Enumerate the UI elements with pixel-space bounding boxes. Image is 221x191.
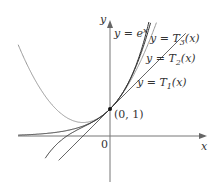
origin-label: 0 bbox=[101, 138, 108, 151]
y-axis-label: y bbox=[99, 13, 107, 26]
label-exp: y = ex bbox=[113, 26, 148, 40]
label-t2: y = T2(x) bbox=[145, 52, 196, 67]
x-axis-arrow-icon bbox=[199, 133, 207, 139]
taylor-polynomial-chart: y x 0 (0, 1) y = ex y = T3(x) y = T2(x) … bbox=[0, 0, 221, 191]
point-0-1 bbox=[108, 107, 112, 111]
x-axis-label: x bbox=[201, 140, 208, 153]
point-label: (0, 1) bbox=[114, 108, 144, 121]
curve-t3 bbox=[45, 23, 150, 158]
y-axis bbox=[107, 20, 113, 182]
label-t3: y = T3(x) bbox=[149, 32, 200, 47]
label-t1: y = T1(x) bbox=[136, 76, 187, 91]
y-axis-arrow-icon bbox=[107, 20, 113, 28]
